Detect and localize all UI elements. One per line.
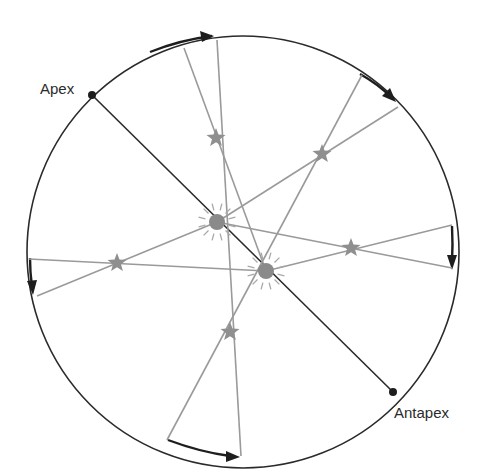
sun-disc	[209, 214, 225, 230]
star-icon	[342, 238, 361, 256]
sun-ray	[248, 274, 255, 276]
sun-positions	[199, 204, 285, 290]
sun-ray	[229, 217, 236, 219]
arrowhead-bottom	[226, 451, 240, 462]
sun-ray	[199, 217, 206, 219]
sun-ray	[278, 266, 285, 268]
sight-line	[37, 222, 217, 296]
sight-line	[184, 48, 266, 271]
sun-ray	[269, 253, 271, 260]
sun-ray	[278, 274, 285, 276]
sight-lines	[29, 40, 452, 456]
sun-ray	[269, 283, 271, 290]
sun-ray	[212, 234, 214, 241]
sun-ray	[220, 204, 222, 211]
sun-ray	[212, 204, 214, 211]
star-icon	[108, 253, 127, 271]
star-icon	[221, 322, 240, 340]
arrow-bottom	[168, 440, 230, 456]
apex-marker	[88, 91, 96, 99]
sight-line	[266, 225, 452, 271]
antapex-label: Antapex	[394, 404, 450, 421]
sun-disc	[258, 263, 274, 279]
sun-ray	[275, 258, 280, 263]
sight-line	[217, 107, 398, 222]
sun-ray	[204, 231, 209, 236]
sun-ray	[253, 280, 258, 285]
arrowhead-left	[27, 280, 37, 295]
arrowhead-top	[200, 31, 214, 42]
sight-line	[167, 75, 362, 440]
apex-label: Apex	[40, 80, 75, 97]
sight-line	[217, 40, 241, 456]
celestial-sphere-diagram: Apex Antapex	[0, 0, 496, 476]
sun-ray	[261, 283, 263, 290]
sun-icon	[199, 204, 236, 241]
antapex-marker	[389, 388, 397, 396]
sight-line	[217, 222, 452, 268]
sun-ray	[220, 234, 222, 241]
sun-ray	[248, 266, 255, 268]
